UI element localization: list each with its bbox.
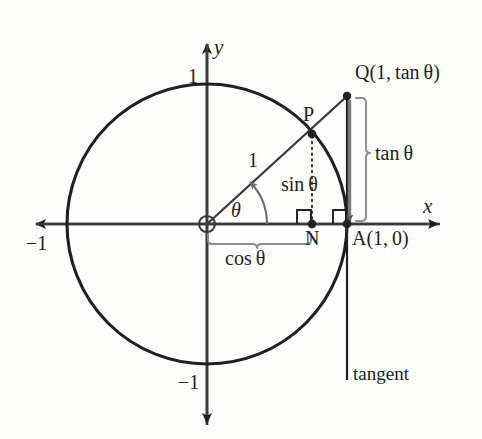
point-q-marker [343, 92, 351, 100]
angle-arc [250, 182, 267, 224]
point-a-marker [343, 220, 352, 229]
tan-theta-label: tan θ [375, 143, 413, 163]
sin-theta-label: sin θ [281, 174, 318, 194]
y-tick-negative-one: −1 [178, 372, 199, 392]
point-p-marker [308, 130, 317, 139]
cos-theta-label: cos θ [225, 248, 265, 268]
ray-to-q [207, 98, 345, 224]
angle-theta-label: θ [231, 200, 241, 220]
tangent-line-label: tangent [353, 364, 409, 383]
point-n-label: N [305, 228, 319, 248]
point-a-label: A(1, 0) [352, 228, 409, 248]
point-q-label: Q(1, tan θ) [355, 62, 440, 82]
y-tick-positive-one: 1 [188, 66, 198, 86]
tan-brace [356, 98, 370, 221]
cos-brace [208, 234, 311, 248]
y-axis-label: y [214, 37, 223, 58]
radius-length-label: 1 [248, 150, 258, 170]
trigonometry-figure: y x 1 −1 −1 P N A(1, 0) Q(1, tan θ) 1 θ … [0, 0, 482, 439]
x-tick-negative-one: −1 [26, 233, 47, 253]
point-p-label: P [303, 104, 314, 124]
x-axis-label: x [423, 196, 432, 217]
